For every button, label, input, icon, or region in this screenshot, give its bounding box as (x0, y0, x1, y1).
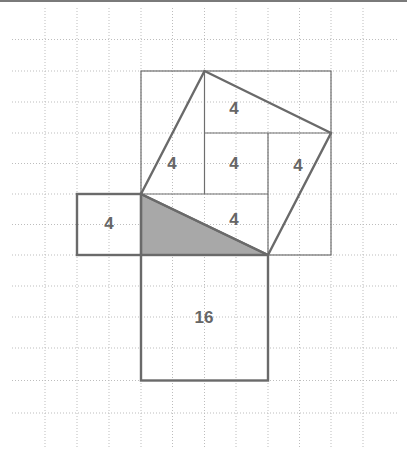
label-small-left-square: 4 (104, 214, 114, 233)
pythagorean-diagram: 4 4 4 4 4 4 16 (0, 0, 407, 456)
label-top-square: 4 (229, 99, 239, 118)
label-large-bottom-square: 16 (195, 308, 214, 327)
label-center-square: 4 (229, 154, 239, 173)
label-right-tilted: 4 (293, 156, 303, 175)
label-bottom-inner: 4 (229, 210, 239, 229)
label-left-tilted: 4 (167, 154, 177, 173)
